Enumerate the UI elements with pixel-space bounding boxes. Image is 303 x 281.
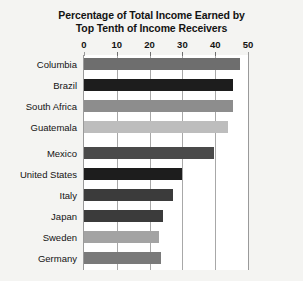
bar-sweden (84, 231, 159, 243)
x-axis-ticks: 01020304050 (84, 39, 248, 53)
bar-row (84, 168, 248, 180)
bar-brazil (84, 79, 233, 91)
x-tick-label-40: 40 (210, 39, 221, 50)
category-label-mexico: Mexico (0, 148, 80, 159)
chart-title-line-1: Percentage of Total Income Earned by (0, 9, 303, 22)
bar-united-states (84, 168, 182, 180)
bar-row (84, 210, 248, 222)
bar-columbia (84, 58, 240, 70)
x-tick-label-20: 20 (144, 39, 155, 50)
bars-layer (84, 55, 248, 270)
category-label-japan: Japan (0, 211, 80, 222)
bar-germany (84, 252, 161, 264)
bar-row (84, 79, 248, 91)
bar-row (84, 252, 248, 264)
category-label-south-africa: South Africa (0, 101, 80, 112)
category-label-sweden: Sweden (0, 232, 80, 243)
chart-figure: Percentage of Total Income Earned by Top… (0, 0, 303, 281)
bar-guatemala (84, 121, 228, 133)
bar-row (84, 58, 248, 70)
x-tick-label-30: 30 (177, 39, 188, 50)
x-tick-label-10: 10 (112, 39, 123, 50)
category-label-brazil: Brazil (0, 80, 80, 91)
bar-row (84, 121, 248, 133)
bar-south-africa (84, 100, 233, 112)
bar-japan (84, 210, 163, 222)
x-tick-mark-50 (248, 52, 249, 56)
category-label-italy: Italy (0, 190, 80, 201)
x-tick-label-50: 50 (243, 39, 254, 50)
category-label-guatemala: Guatemala (0, 122, 80, 133)
category-axis-labels: ColumbiaBrazilSouth AfricaGuatemalaMexic… (0, 55, 80, 270)
category-label-germany: Germany (0, 253, 80, 264)
x-tick-label-0: 0 (81, 39, 86, 50)
category-label-columbia: Columbia (0, 59, 80, 70)
bar-italy (84, 189, 173, 201)
bar-row (84, 100, 248, 112)
bar-row (84, 189, 248, 201)
chart-title-line-2: Top Tenth of Income Receivers (0, 22, 303, 35)
bar-row (84, 231, 248, 243)
chart-title: Percentage of Total Income Earned by Top… (0, 9, 303, 34)
category-label-united-states: United States (0, 169, 80, 180)
bar-mexico (84, 147, 214, 159)
bar-row (84, 147, 248, 159)
